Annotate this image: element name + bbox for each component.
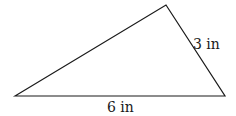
triangle-diagram: 3 in 6 in — [0, 0, 236, 116]
right-side-length-label: 3 in — [193, 36, 220, 52]
base-length-label: 6 in — [107, 99, 134, 115]
